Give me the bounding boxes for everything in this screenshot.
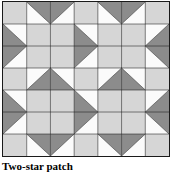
cell-solid bbox=[3, 134, 27, 156]
quilt-cell bbox=[27, 134, 51, 156]
quilt-cell bbox=[3, 90, 27, 112]
quilt-cell bbox=[3, 68, 27, 90]
figure-caption: Two-star patch bbox=[2, 160, 171, 173]
cell-solid bbox=[98, 24, 122, 46]
cell-solid bbox=[98, 90, 122, 112]
quilt-cell bbox=[122, 24, 146, 46]
cell-solid bbox=[145, 68, 169, 90]
quilt-cell bbox=[3, 2, 27, 24]
quilt-cell bbox=[98, 46, 122, 68]
quilt-cell bbox=[27, 90, 51, 112]
quilt-cell bbox=[50, 90, 74, 112]
quilt-cell bbox=[122, 134, 146, 156]
quilt-cell bbox=[27, 24, 51, 46]
cell-solid bbox=[50, 112, 74, 134]
quilt-cell bbox=[98, 112, 122, 134]
cell-solid bbox=[3, 2, 27, 24]
cell-solid bbox=[27, 46, 51, 68]
quilt-cell bbox=[74, 68, 98, 90]
quilt-cell bbox=[27, 2, 51, 24]
cell-solid bbox=[50, 46, 74, 68]
cell-solid bbox=[27, 90, 51, 112]
cell-solid bbox=[50, 24, 74, 46]
quilt-cell bbox=[145, 46, 169, 68]
quilt-cell bbox=[145, 68, 169, 90]
cell-solid bbox=[74, 2, 98, 24]
quilt-cell bbox=[74, 24, 98, 46]
cell-solid bbox=[122, 112, 146, 134]
quilt-cell bbox=[122, 68, 146, 90]
figure-two-star-patch: Two-star patch bbox=[0, 0, 173, 174]
quilt-cell bbox=[145, 2, 169, 24]
quilt-cell bbox=[98, 68, 122, 90]
quilt-cell bbox=[50, 24, 74, 46]
cell-solid bbox=[145, 2, 169, 24]
quilt-frame bbox=[2, 1, 170, 157]
quilt-cell bbox=[50, 112, 74, 134]
quilt-cell bbox=[50, 134, 74, 156]
quilt-cell bbox=[50, 46, 74, 68]
quilt-cell bbox=[3, 46, 27, 68]
cell-solid bbox=[145, 134, 169, 156]
cell-solid bbox=[27, 24, 51, 46]
quilt-cell bbox=[122, 46, 146, 68]
cell-solid bbox=[98, 46, 122, 68]
quilt-cell bbox=[74, 90, 98, 112]
quilt-cell bbox=[3, 112, 27, 134]
cell-solid bbox=[98, 112, 122, 134]
quilt-cell bbox=[122, 90, 146, 112]
quilt-cell bbox=[122, 2, 146, 24]
quilt-cell bbox=[145, 134, 169, 156]
cell-solid bbox=[122, 46, 146, 68]
quilt-cell bbox=[27, 46, 51, 68]
quilt-cell bbox=[74, 112, 98, 134]
quilt-cell bbox=[145, 24, 169, 46]
quilt-cell bbox=[3, 24, 27, 46]
quilt-cell bbox=[98, 90, 122, 112]
cell-solid bbox=[74, 68, 98, 90]
quilt-cell bbox=[74, 46, 98, 68]
cell-solid bbox=[74, 134, 98, 156]
quilt-cell bbox=[27, 112, 51, 134]
quilt-grid bbox=[3, 2, 169, 156]
quilt-cell bbox=[145, 90, 169, 112]
quilt-cell bbox=[98, 24, 122, 46]
cell-solid bbox=[50, 90, 74, 112]
cell-solid bbox=[122, 24, 146, 46]
quilt-cell bbox=[27, 68, 51, 90]
quilt-cell bbox=[50, 68, 74, 90]
quilt-cell bbox=[74, 134, 98, 156]
quilt-cell bbox=[145, 112, 169, 134]
quilt-cell bbox=[98, 2, 122, 24]
quilt-cell bbox=[122, 112, 146, 134]
quilt-cell bbox=[3, 134, 27, 156]
quilt-cell bbox=[50, 2, 74, 24]
quilt-cell bbox=[74, 2, 98, 24]
quilt-cell bbox=[98, 134, 122, 156]
cell-solid bbox=[3, 68, 27, 90]
cell-solid bbox=[122, 90, 146, 112]
quilt-pattern-svg bbox=[3, 2, 169, 156]
cell-solid bbox=[27, 112, 51, 134]
